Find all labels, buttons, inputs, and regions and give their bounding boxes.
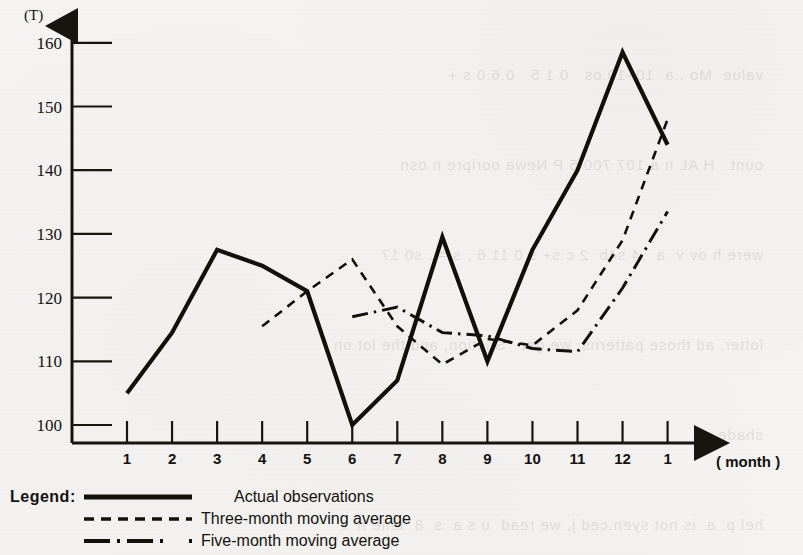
- x-tick-label-9-9: 9: [483, 450, 491, 467]
- legend-swatch-solid: [84, 490, 192, 504]
- x-tick-label-6-6: 6: [348, 450, 356, 467]
- y-tick-label-130: 130: [37, 225, 63, 244]
- x-tick-label-3-3: 3: [213, 450, 221, 467]
- series-line-actual-observations: [127, 52, 668, 425]
- legend-label-three-month-moving-average: Three-month moving average: [201, 510, 411, 528]
- legend-swatch-dashed: [84, 512, 192, 526]
- y-tick-label-120: 120: [37, 289, 63, 308]
- chart-svg: 100110120130140150160 1234567891011121 (…: [0, 0, 803, 470]
- series-line-three-month-moving-average: [262, 119, 667, 364]
- x-tick-label-1-13: 1: [663, 450, 671, 467]
- x-tick-label-4-4: 4: [258, 450, 267, 467]
- y-axis-unit-label: (T): [24, 7, 43, 24]
- x-tick-label-8-8: 8: [438, 450, 446, 467]
- x-axis-caption: ( month ): [716, 453, 780, 470]
- legend-swatch-dash-dot: [84, 534, 192, 548]
- x-tick-label-12-12: 12: [614, 450, 631, 467]
- series-line-five-month-moving-average: [352, 212, 667, 352]
- y-tick-label-160: 160: [37, 34, 63, 53]
- legend-item-three-month-moving-average: Three-month moving average: [6, 508, 566, 530]
- legend-label-five-month-moving-average: Five-month moving average: [201, 532, 399, 550]
- chart-legend: Legend: Actual observations Three-month …: [6, 486, 566, 552]
- y-tick-label-100: 100: [37, 416, 63, 435]
- y-axis-ticks: 100110120130140150160: [37, 34, 113, 435]
- x-tick-label-10-10: 10: [524, 450, 541, 467]
- x-tick-label-7-7: 7: [393, 450, 401, 467]
- x-tick-label-11-11: 11: [570, 450, 586, 467]
- x-tick-label-5-5: 5: [303, 450, 311, 467]
- x-tick-label-2-2: 2: [168, 450, 176, 467]
- x-tick-label-1-1: 1: [123, 450, 131, 467]
- y-tick-label-150: 150: [37, 98, 63, 117]
- y-tick-label-140: 140: [37, 161, 63, 180]
- chart-canvas: 100110120130140150160 1234567891011121 (…: [0, 0, 803, 555]
- legend-item-five-month-moving-average: Five-month moving average: [6, 530, 566, 552]
- y-tick-label-110: 110: [37, 352, 62, 371]
- legend-item-actual-observations: Actual observations: [6, 486, 566, 508]
- legend-label-actual-observations: Actual observations: [234, 488, 374, 506]
